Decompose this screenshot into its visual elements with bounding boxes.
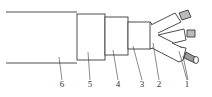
label-4: 4	[114, 80, 122, 89]
core-bottom	[152, 43, 199, 64]
label-6: 6	[58, 80, 66, 89]
label-5: 5	[86, 80, 94, 89]
core-middle	[158, 29, 195, 43]
layer-4	[105, 17, 128, 55]
label-3: 3	[138, 80, 146, 89]
label-2: 2	[155, 80, 163, 89]
cable-diagram	[0, 0, 212, 97]
layer-5	[77, 14, 105, 60]
core-top	[151, 10, 191, 33]
label-1: 1	[183, 80, 191, 89]
layer-6-outer-sheath	[6, 12, 77, 63]
conductor-strands-icon	[179, 10, 191, 20]
conductor-strands-icon	[187, 30, 195, 37]
layer-3	[128, 22, 150, 49]
